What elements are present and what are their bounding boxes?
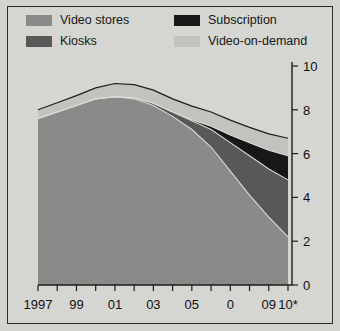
legend-label-kiosks: Kiosks	[60, 35, 97, 48]
legend-swatch-subscription	[174, 15, 200, 26]
chart-legend: Video stores Kiosks Subscription Video-o…	[14, 8, 314, 54]
legend-swatch-video-on-demand	[174, 36, 200, 47]
legend-label-video-on-demand: Video-on-demand	[208, 35, 307, 48]
legend-label-subscription: Subscription	[208, 14, 277, 27]
legend-item-kiosks: Kiosks	[26, 35, 97, 48]
legend-item-video-on-demand: Video-on-demand	[174, 35, 307, 48]
legend-swatch-kiosks	[26, 36, 52, 47]
legend-label-video-stores: Video stores	[60, 14, 129, 27]
legend-item-subscription: Subscription	[174, 14, 277, 27]
chart-figure: Video stores Kiosks Subscription Video-o…	[0, 0, 340, 331]
legend-swatch-video-stores	[26, 15, 52, 26]
legend-item-video-stores: Video stores	[26, 14, 129, 27]
